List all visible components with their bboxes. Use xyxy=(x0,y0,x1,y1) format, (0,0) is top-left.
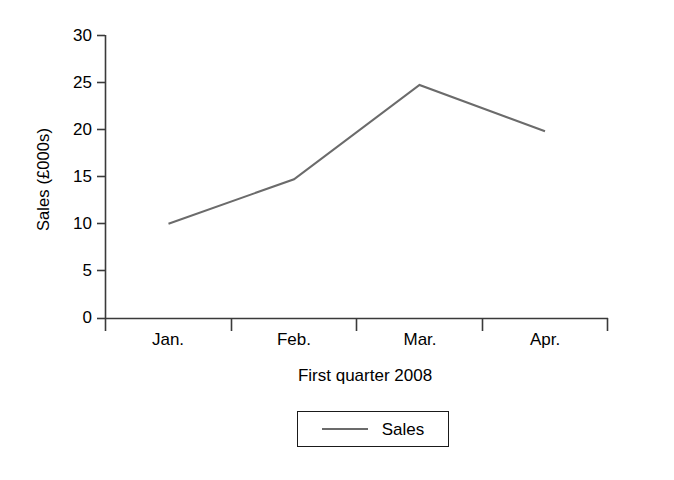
x-tick-label-jan: Jan. xyxy=(98,330,238,350)
x-axis-tick-labels: Jan. Feb. Mar. Apr. xyxy=(0,0,674,480)
line-chart: Sales (£000s) 30 25 20 15 10 5 0 xyxy=(0,0,674,480)
x-axis-title: First quarter 2008 xyxy=(28,366,674,386)
x-tick-label-mar: Mar. xyxy=(350,330,490,350)
x-tick-label-apr: Apr. xyxy=(475,330,615,350)
legend-label-sales: Sales xyxy=(382,421,425,438)
x-tick-label-feb: Feb. xyxy=(224,330,364,350)
legend: Sales xyxy=(297,411,449,447)
legend-line-swatch xyxy=(322,428,368,430)
